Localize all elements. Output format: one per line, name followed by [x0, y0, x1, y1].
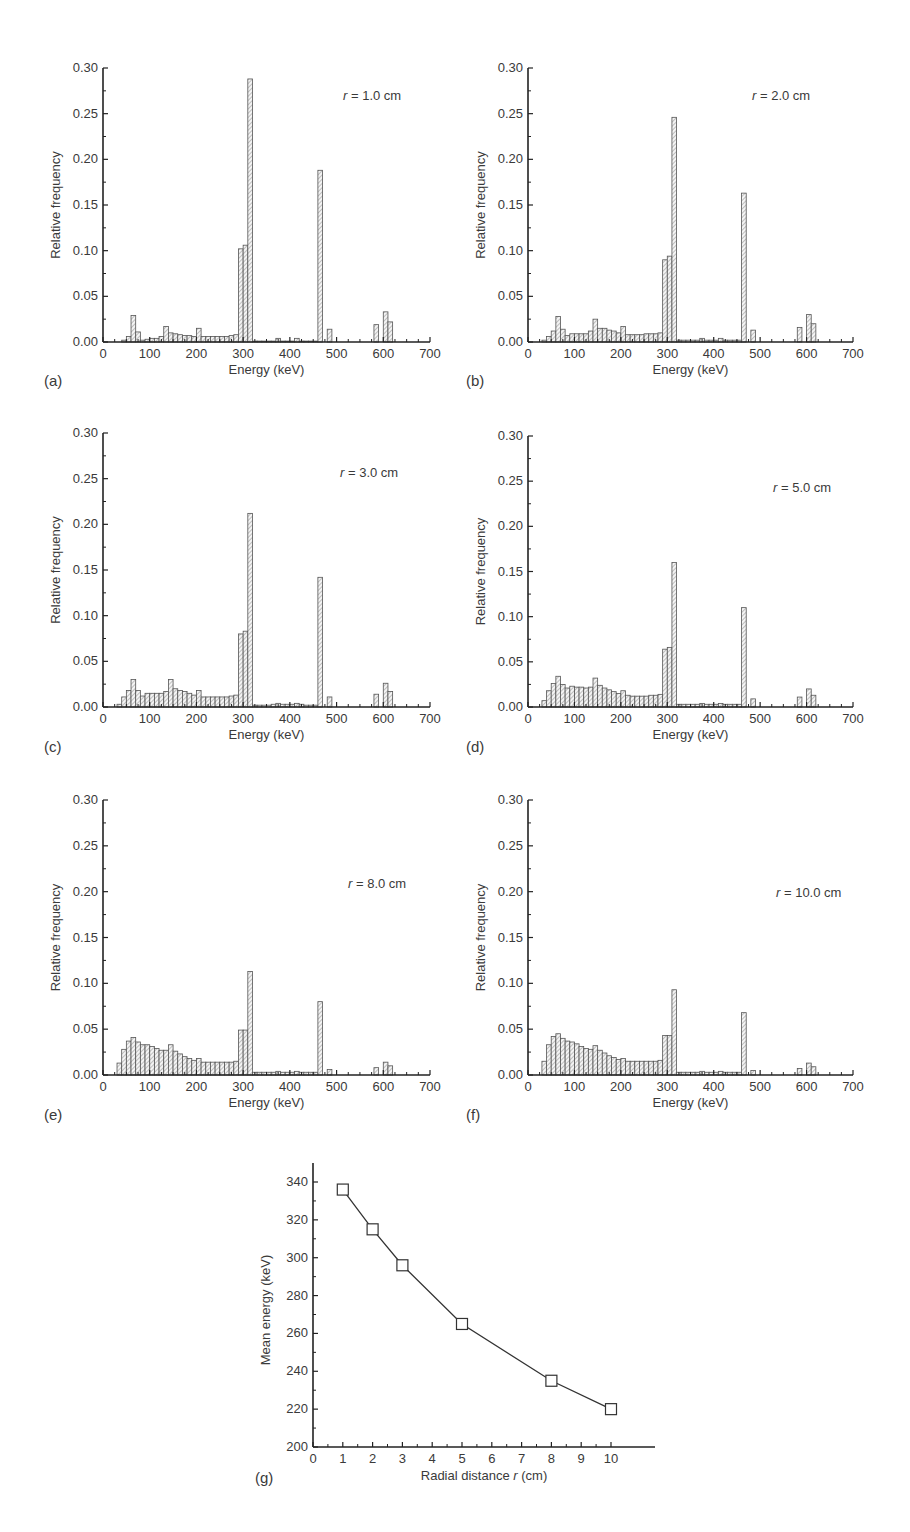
x-tick-label: 0 [309, 1451, 316, 1466]
figure: 0.000.050.100.150.200.250.30010020030040… [0, 0, 910, 1532]
y-tick-label: 0.30 [498, 60, 523, 75]
histogram-bar [639, 1061, 644, 1075]
y-tick-label: 0.10 [498, 609, 523, 624]
y-tick-label: 0.25 [73, 471, 98, 486]
histogram-bar [667, 647, 672, 707]
y-tick-label: 0.05 [73, 653, 98, 668]
histogram-bar [388, 1066, 393, 1075]
y-tick-label: 280 [286, 1288, 308, 1303]
histogram-bar [131, 316, 136, 342]
x-tick-label: 500 [749, 711, 771, 726]
y-tick-label: 340 [286, 1174, 308, 1189]
x-tick-label: 200 [186, 711, 208, 726]
histogram-panel-d: 0.000.050.100.150.200.250.30010020030040… [466, 428, 864, 755]
histogram-bar [574, 334, 579, 342]
histogram-bar [742, 608, 747, 707]
y-tick-label: 0.30 [498, 428, 523, 443]
histogram-bar [598, 328, 603, 342]
data-point-marker [397, 1260, 408, 1271]
histogram-bar [551, 684, 556, 707]
x-tick-label: 5 [458, 1451, 465, 1466]
radius-annotation: r = 1.0 cm [343, 88, 401, 103]
y-axis-label: Mean energy (keV) [258, 1255, 273, 1366]
histogram-bar [243, 245, 248, 342]
y-tick-label: 0.05 [73, 288, 98, 303]
y-tick-label: 200 [286, 1439, 308, 1454]
y-tick-label: 220 [286, 1401, 308, 1416]
histogram-bar [196, 691, 201, 707]
histogram-bar [220, 337, 225, 342]
histogram-bar [811, 324, 816, 342]
histogram-bar [616, 693, 621, 707]
histogram-bar [658, 333, 663, 342]
x-tick-label: 100 [564, 711, 586, 726]
radius-annotation: r = 10.0 cm [776, 885, 841, 900]
histogram-bar [215, 337, 220, 342]
data-point-marker [546, 1375, 557, 1386]
x-tick-label: 100 [139, 711, 161, 726]
y-tick-label: 320 [286, 1212, 308, 1227]
x-tick-label: 100 [139, 346, 161, 361]
y-tick-label: 0.15 [498, 197, 523, 212]
histogram-bar [154, 693, 159, 707]
y-tick-label: 0.20 [498, 151, 523, 166]
x-tick-label: 100 [564, 1079, 586, 1094]
y-tick-label: 0.00 [498, 1067, 523, 1082]
histogram-bar [556, 1034, 561, 1075]
x-tick-label: 500 [326, 1079, 348, 1094]
histogram-bar [547, 337, 552, 342]
y-tick-label: 0.15 [73, 930, 98, 945]
histogram-bar [196, 1059, 201, 1076]
histogram-bar [556, 316, 561, 342]
x-tick-label: 0 [524, 346, 531, 361]
x-tick-label: 700 [419, 1079, 441, 1094]
histogram-bar [383, 683, 388, 707]
x-tick-label: 200 [186, 346, 208, 361]
histogram-bar [224, 337, 229, 342]
panel-label: (a) [44, 372, 62, 389]
histogram-bar [126, 691, 131, 707]
histogram-bar [164, 691, 169, 707]
histogram-bar [574, 1044, 579, 1075]
histogram-bar [598, 685, 603, 707]
x-tick-label: 3 [399, 1451, 406, 1466]
y-tick-label: 0.20 [73, 884, 98, 899]
y-tick-label: 0.25 [73, 838, 98, 853]
panel-label: (f) [466, 1106, 480, 1123]
radius-annotation: r = 5.0 cm [773, 480, 831, 495]
y-tick-label: 0.20 [73, 151, 98, 166]
histogram-bars [542, 990, 816, 1075]
x-axis-label: Energy (keV) [653, 727, 729, 742]
data-point-marker [457, 1318, 468, 1329]
panel-label: (g) [255, 1469, 273, 1486]
histogram-bar [807, 315, 812, 342]
histogram-bar [178, 335, 183, 342]
y-tick-label: 0.25 [73, 106, 98, 121]
histogram-bar [644, 334, 649, 342]
x-tick-label: 600 [796, 711, 818, 726]
panel-label: (d) [466, 738, 484, 755]
histogram-bar [612, 1058, 617, 1075]
histogram-bar [626, 1061, 631, 1075]
histogram-bar [667, 1036, 672, 1075]
histogram-bar [593, 319, 598, 342]
histogram-bar [807, 1063, 812, 1075]
histogram-bar [178, 1054, 183, 1075]
x-tick-label: 600 [796, 346, 818, 361]
histogram-bar [811, 695, 816, 707]
x-tick-label: 300 [232, 711, 254, 726]
radius-annotation: r = 8.0 cm [348, 876, 406, 891]
x-tick-label: 100 [139, 1079, 161, 1094]
histogram-bar [649, 1061, 654, 1075]
x-tick-label: 600 [372, 1079, 394, 1094]
histogram-bar [374, 325, 379, 342]
histogram-bar [635, 335, 640, 342]
histogram-bar [797, 1069, 802, 1075]
x-tick-label: 200 [610, 346, 632, 361]
histogram-bar [145, 693, 150, 707]
histogram-bar [672, 990, 677, 1075]
histogram-bar [383, 1062, 388, 1075]
panel-label: (e) [44, 1106, 62, 1123]
histogram-bar [215, 1062, 220, 1075]
y-tick-label: 300 [286, 1250, 308, 1265]
